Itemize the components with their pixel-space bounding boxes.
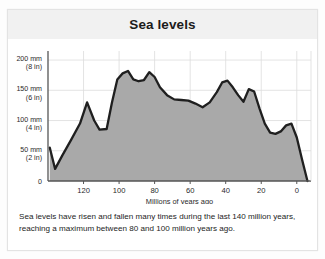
- y-axis-tick-label: 50 mm: [20, 146, 42, 154]
- y-axis-tick-label-inches: (4 in): [26, 124, 42, 132]
- chart-plot-area: 050 mm(2 in)100 mm(4 in)150 mm(6 in)200 …: [8, 39, 319, 204]
- y-axis-tick-label: 150 mm: [16, 85, 42, 93]
- chart-title-band: Sea levels: [8, 10, 317, 39]
- x-axis-tick-label: 120: [77, 186, 90, 195]
- x-axis-title: Millions of years ago: [146, 197, 213, 204]
- page-title: Sea levels: [129, 17, 195, 32]
- caption-line-1: Sea levels have risen and fallen many ti…: [19, 211, 307, 223]
- y-axis-tick-label-inches: (8 in): [26, 63, 42, 71]
- chart-page: Sea levels 050 mm(2 in)100 mm(4 in)150 m…: [0, 0, 325, 259]
- x-axis-tick-label: 40: [221, 186, 229, 195]
- y-axis-tick-label-inches: (2 in): [26, 154, 42, 162]
- y-axis-tick-label: 0: [38, 178, 42, 186]
- x-axis-tick-label: 0: [295, 186, 299, 195]
- sea-levels-area-chart: 050 mm(2 in)100 mm(4 in)150 mm(6 in)200 …: [8, 39, 319, 204]
- y-axis-tick-label: 100 mm: [16, 116, 42, 124]
- x-axis-tick-label: 80: [150, 186, 158, 195]
- caption-line-2: reaching a maximum between 80 and 100 mi…: [19, 223, 307, 235]
- y-axis-tick-label-inches: (6 in): [26, 94, 42, 102]
- chart-caption: Sea levels have risen and fallen many ti…: [19, 211, 307, 236]
- x-axis-tick-label: 20: [257, 186, 265, 195]
- x-axis-tick-label: 60: [186, 186, 194, 195]
- x-axis-tick-label: 100: [113, 186, 126, 195]
- y-axis-tick-label: 200 mm: [16, 55, 42, 63]
- sea-levels-chart-card: Sea levels 050 mm(2 in)100 mm(4 in)150 m…: [7, 9, 318, 251]
